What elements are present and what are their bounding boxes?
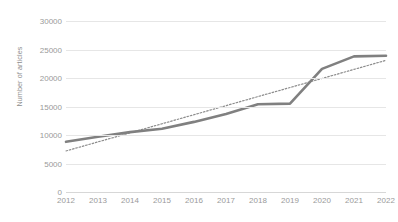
gridline [66,135,386,136]
x-tick-label: 2019 [281,196,299,205]
x-tick-label: 2013 [89,196,107,205]
x-axis-tick-labels: 2012201320142015201620172018201920202021… [66,196,386,216]
gridline [66,107,386,108]
line-chart: Number of articles 050001000015000200002… [0,0,398,222]
y-tick-label: 30000 [18,17,62,26]
y-tick-label: 0 [18,188,62,197]
y-tick-label: 5000 [18,159,62,168]
gridline [66,50,386,51]
y-tick-label: 25000 [18,45,62,54]
series-line-path [66,56,386,142]
x-tick-label: 2012 [57,196,75,205]
x-tick-label: 2015 [153,196,171,205]
y-tick-label: 20000 [18,74,62,83]
gridline [66,164,386,165]
x-axis-line [66,192,386,193]
x-tick-label: 2014 [121,196,139,205]
gridline [66,78,386,79]
x-tick-label: 2017 [217,196,235,205]
x-tick-label: 2021 [345,196,363,205]
x-tick-label: 2018 [249,196,267,205]
plot-area [66,21,386,192]
x-tick-label: 2016 [185,196,203,205]
y-tick-label: 10000 [18,131,62,140]
gridline [66,21,386,22]
x-tick-label: 2020 [313,196,331,205]
y-axis-tick-labels: 050001000015000200002500030000 [18,0,62,222]
y-tick-label: 15000 [18,102,62,111]
x-tick-label: 2022 [377,196,395,205]
